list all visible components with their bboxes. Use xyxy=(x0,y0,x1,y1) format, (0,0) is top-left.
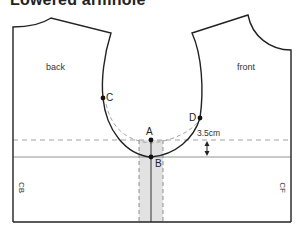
point-a-marker xyxy=(149,138,154,143)
arrow-up-head-icon xyxy=(205,141,210,146)
arrow-down-head-icon xyxy=(205,151,210,156)
point-b-label: B xyxy=(155,158,162,169)
point-c-marker xyxy=(101,96,106,101)
original-armhole-dashed xyxy=(106,104,198,143)
point-d-marker xyxy=(198,116,203,121)
point-b-marker xyxy=(149,155,154,160)
measurement-label: 3.5cm xyxy=(197,128,220,138)
point-d-label: D xyxy=(189,112,196,123)
center-front-label: CF xyxy=(278,182,287,193)
pattern-drawing xyxy=(0,0,304,238)
point-c-label: C xyxy=(106,92,113,103)
back-label: back xyxy=(46,62,65,72)
front-label: front xyxy=(237,62,255,72)
front-piece-outline xyxy=(151,15,291,222)
center-back-label: CB xyxy=(17,182,26,193)
back-piece-outline xyxy=(13,18,151,222)
point-a-label: A xyxy=(146,126,153,137)
